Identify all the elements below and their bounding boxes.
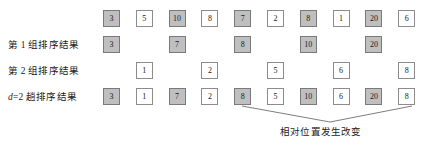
row-label-pass-result: d=2 趟排序结果: [8, 93, 77, 103]
array-cell-r2-c9: 8: [398, 62, 415, 79]
annotation-caption: 相对位置发生改变: [280, 128, 362, 138]
array-cell-r0-c3: 8: [201, 10, 218, 27]
array-cell-r0-c8: 20: [365, 10, 382, 27]
array-cell-r3-c7: 6: [333, 88, 350, 105]
row-label-group-1: 第 1 组排序结果: [8, 41, 79, 51]
array-cell-r3-c6: 10: [300, 88, 317, 105]
array-cell-r1-c6: 10: [300, 36, 317, 53]
array-cell-r2-c7: 6: [333, 62, 350, 79]
array-cell-r0-c5: 2: [267, 10, 284, 27]
array-cell-r3-c3: 2: [201, 88, 218, 105]
array-cell-r0-c7: 1: [333, 10, 350, 27]
row-label-group-2: 第 2 组排序结果: [8, 67, 79, 77]
array-cell-r0-c6: 8: [300, 10, 317, 27]
array-cell-r3-c0: 3: [103, 88, 120, 105]
array-cell-r3-c2: 7: [169, 88, 186, 105]
array-cell-r0-c1: 5: [136, 10, 153, 27]
row-label-pass-text: =2 趟排序结果: [13, 92, 77, 102]
array-cell-r3-c9: 8: [398, 88, 415, 105]
array-cell-r0-c2: 10: [169, 10, 186, 27]
array-cell-r1-c4: 8: [234, 36, 251, 53]
shell-sort-diagram: 第 1 组排序结果 第 2 组排序结果 d=2 趟排序结果 3510872812…: [0, 0, 426, 150]
array-cell-r0-c9: 6: [398, 10, 415, 27]
array-cell-r0-c4: 7: [234, 10, 251, 27]
array-cell-r1-c0: 3: [103, 36, 120, 53]
array-cell-r3-c1: 1: [136, 88, 153, 105]
array-cell-r3-c5: 5: [267, 88, 284, 105]
array-cell-r3-c8: 20: [365, 88, 382, 105]
array-cell-r2-c5: 5: [267, 62, 284, 79]
array-cell-r3-c4: 8: [234, 88, 251, 105]
leader-polyline: [242, 106, 412, 122]
array-cell-r2-c1: 1: [136, 62, 153, 79]
array-cell-r2-c3: 2: [201, 62, 218, 79]
array-cell-r1-c8: 20: [365, 36, 382, 53]
array-cell-r0-c0: 3: [103, 10, 120, 27]
array-cell-r1-c2: 7: [169, 36, 186, 53]
